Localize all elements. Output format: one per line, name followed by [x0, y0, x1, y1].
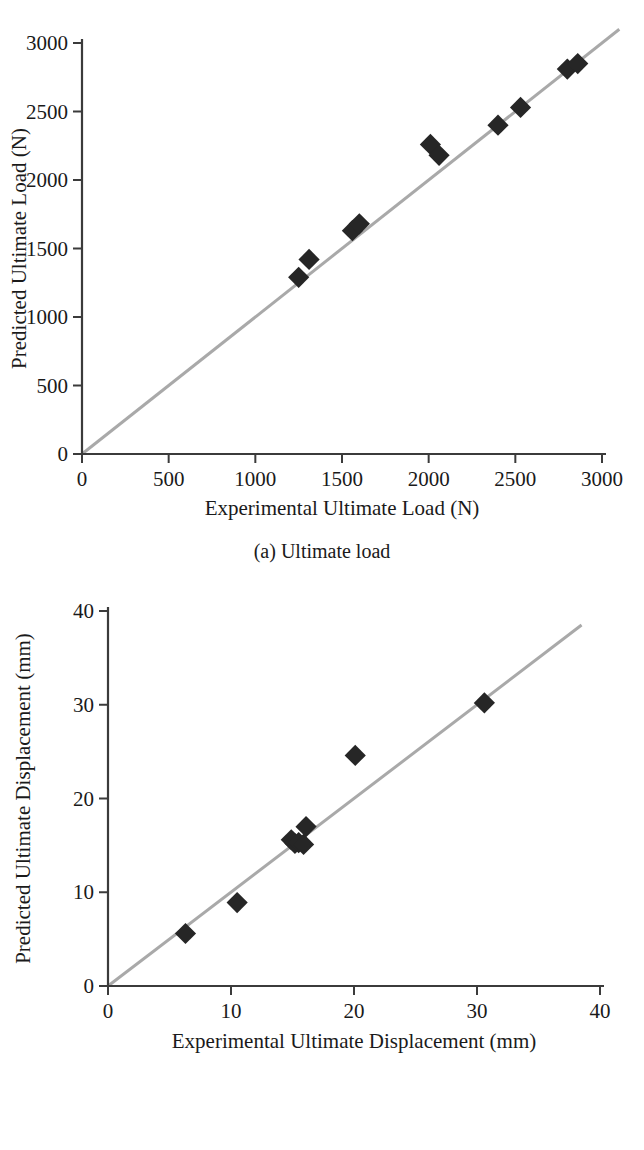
y-tick-label: 2000 [26, 168, 68, 192]
x-tick-label: 0 [77, 467, 88, 491]
y-tick-label: 1000 [26, 305, 68, 329]
x-axis-title: Experimental Ultimate Load (N) [205, 496, 480, 520]
x-tick-label: 0 [103, 999, 114, 1023]
y-tick-label: 40 [73, 599, 94, 623]
y-tick-label: 3000 [26, 31, 68, 55]
y-tick-label: 1500 [26, 237, 68, 261]
plot-content: 010203040010203040Experimental Ultimate … [11, 599, 611, 1053]
panel-ultimate-load: 0500100015002000250030000500100015002000… [0, 0, 644, 580]
y-tick-label: 10 [73, 880, 94, 904]
scatter-plot-ultimate-displacement: 010203040010203040Experimental Ultimate … [0, 580, 644, 1088]
equality-reference-line [82, 29, 619, 454]
x-tick-label: 3000 [581, 467, 623, 491]
data-point-marker [474, 692, 495, 713]
x-axis-title: Experimental Ultimate Displacement (mm) [172, 1029, 536, 1053]
plot-content: 0500100015002000250030000500100015002000… [7, 29, 623, 520]
x-tick-label: 10 [221, 999, 242, 1023]
x-tick-label: 2000 [408, 467, 450, 491]
y-tick-label: 2500 [26, 100, 68, 124]
y-axis-title: Predicted Ultimate Load (N) [7, 128, 31, 369]
data-point-marker [345, 745, 366, 766]
data-point-marker [175, 923, 196, 944]
y-tick-label: 500 [37, 374, 69, 398]
data-point-marker [288, 267, 309, 288]
scatter-plot-ultimate-load: 0500100015002000250030000500100015002000… [0, 0, 644, 540]
x-tick-label: 2500 [494, 467, 536, 491]
y-tick-label: 0 [84, 974, 95, 998]
x-tick-label: 30 [467, 999, 488, 1023]
y-tick-label: 0 [58, 442, 69, 466]
panel-ultimate-displacement: 010203040010203040Experimental Ultimate … [0, 580, 644, 1150]
x-tick-label: 1000 [234, 467, 276, 491]
data-point-marker [227, 892, 248, 913]
x-tick-label: 20 [344, 999, 365, 1023]
x-tick-label: 1500 [321, 467, 363, 491]
y-axis-title: Predicted Ultimate Displacement (mm) [11, 633, 35, 964]
subcaption-a: (a) Ultimate load [0, 540, 644, 563]
y-tick-label: 30 [73, 693, 94, 717]
figure-scatter-comparison: 0500100015002000250030000500100015002000… [0, 0, 644, 1150]
y-tick-label: 20 [73, 787, 94, 811]
x-tick-label: 500 [153, 467, 185, 491]
x-tick-label: 40 [590, 999, 611, 1023]
